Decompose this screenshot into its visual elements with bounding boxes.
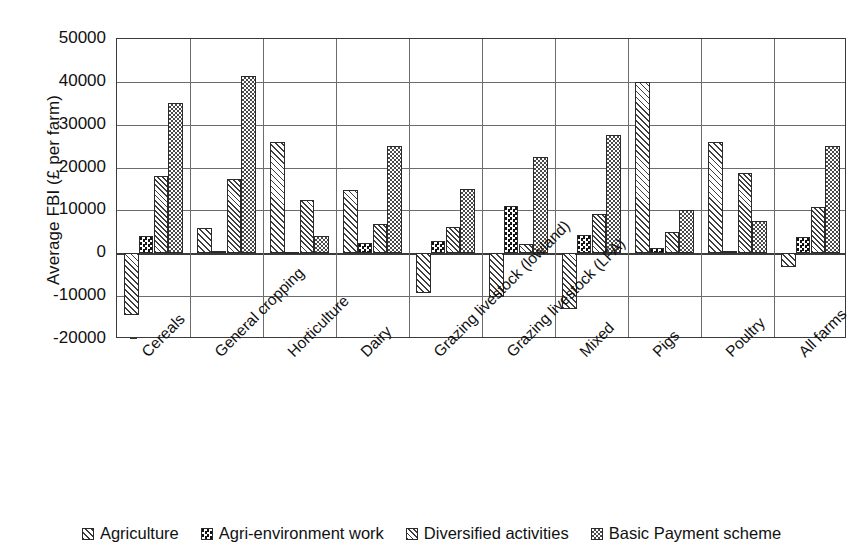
bar-group [628, 39, 701, 337]
bar [606, 135, 621, 253]
bar [635, 82, 650, 253]
bar [358, 243, 373, 254]
legend-swatch-icon [201, 528, 213, 540]
legend-label: Agriculture [100, 524, 179, 543]
bar [460, 189, 475, 253]
bar [227, 179, 242, 253]
bar [708, 142, 723, 253]
bar [373, 224, 388, 253]
bar [154, 176, 169, 253]
legend-swatch-icon [406, 528, 418, 540]
bar-group [190, 39, 263, 337]
bar [212, 251, 227, 253]
bar-group [117, 39, 190, 337]
bar [665, 232, 680, 253]
y-tick-label: 30000 [22, 114, 106, 134]
bar-group [774, 39, 847, 337]
legend-swatch-icon [591, 528, 603, 540]
bar [314, 236, 329, 254]
legend-label: Basic Payment scheme [609, 524, 781, 543]
bar [781, 253, 796, 267]
y-tick-label: 50000 [22, 28, 106, 48]
bar [446, 227, 461, 253]
bar [577, 235, 592, 253]
bar [168, 103, 183, 253]
bar-chart: Average FBI (£ per farm) 500004000030000… [0, 0, 863, 546]
legend-label: Agri-environment work [219, 524, 384, 543]
legend-item[interactable]: Basic Payment scheme [591, 524, 781, 543]
bar [796, 237, 811, 253]
bar [139, 236, 154, 253]
bar [241, 76, 256, 253]
bar-group [701, 39, 774, 337]
plot-area [116, 38, 846, 338]
x-axis-category-labels: CerealsGeneral croppingHorticultureDairy… [116, 340, 846, 510]
bar [124, 253, 139, 315]
y-tick-label: -10000 [22, 285, 106, 305]
bar [738, 173, 753, 254]
bar [343, 190, 358, 253]
y-tick-mark [130, 338, 137, 339]
bar [431, 241, 446, 253]
bar [416, 253, 431, 292]
bar [723, 251, 738, 253]
bar [752, 221, 767, 253]
y-tick-label: 20000 [22, 157, 106, 177]
bar-group [409, 39, 482, 337]
y-tick-label: 0 [22, 242, 106, 262]
y-axis-tick-labels: 50000400003000020000100000-10000-20000 [22, 0, 106, 546]
bar-group [336, 39, 409, 337]
y-tick-label: -20000 [22, 328, 106, 348]
y-tick-label: 10000 [22, 199, 106, 219]
legend-label: Diversified activities [424, 524, 569, 543]
bar [300, 200, 315, 253]
y-tick-label: 40000 [22, 71, 106, 91]
bar [650, 248, 665, 253]
bar [285, 252, 300, 254]
legend-item[interactable]: Agri-environment work [201, 524, 384, 543]
bar [504, 206, 519, 253]
bar [825, 146, 840, 253]
chart-legend: AgricultureAgri-environment workDiversif… [0, 524, 863, 543]
bar [387, 146, 402, 253]
legend-swatch-icon [82, 528, 94, 540]
legend-item[interactable]: Agriculture [82, 524, 179, 543]
bar [679, 210, 694, 254]
bar [270, 142, 285, 253]
legend-item[interactable]: Diversified activities [406, 524, 569, 543]
bar [197, 228, 212, 253]
bar [811, 207, 826, 253]
bar-series-container [117, 39, 845, 337]
